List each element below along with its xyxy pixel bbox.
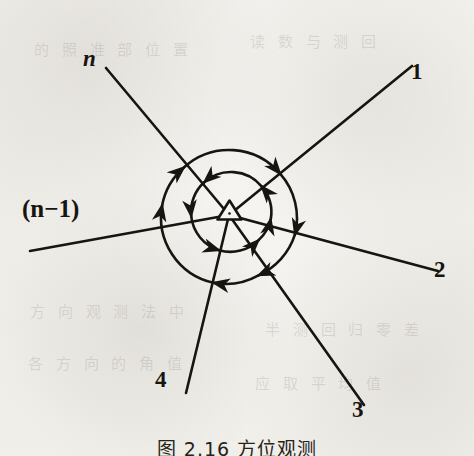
diagram-svg: [0, 0, 474, 456]
inner-arc-1-to-n: [204, 172, 261, 186]
outer-arc-3-to-4: [213, 275, 258, 284]
ray-line-1: [229, 66, 412, 215]
figure-canvas: 的 照 准 部 位 置 读 数 与 测 回 方 向 观 测 法 中 半 测 回 …: [0, 0, 474, 456]
label-n: n: [83, 47, 96, 70]
outer-arc-n-to-1: [184, 150, 280, 174]
label-4: 4: [155, 368, 167, 391]
inner-arc-2-to-1: [262, 186, 272, 219]
ray-lines: [30, 66, 438, 405]
outer-arc-1-to-2: [280, 174, 297, 235]
station-triangle-icon: [218, 201, 242, 220]
ray-line-3: [229, 215, 364, 405]
outer-arc-2-to-3: [259, 235, 295, 276]
ray-line-4: [186, 215, 229, 393]
figure-caption: 图 2.16 方位观测: [0, 434, 474, 456]
label-n-minus-1: (n−1): [22, 196, 79, 221]
label-3: 3: [352, 398, 364, 421]
ray-line-2: [229, 215, 438, 271]
inner-arc-n-to-n-minus-1: [191, 182, 204, 216]
label-2: 2: [434, 258, 446, 281]
outer-arc-n-minus-1-to-n: [162, 167, 184, 205]
ray-line-n: [106, 68, 229, 215]
label-1: 1: [411, 60, 423, 83]
station-center-dot: [228, 212, 231, 215]
